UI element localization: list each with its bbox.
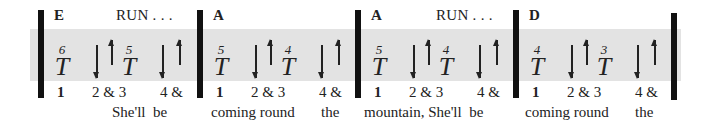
measure-2: A 5 T 4 T 1 2 & 3 4 & coming round the xyxy=(203,0,355,136)
up-strum-arrow-icon xyxy=(496,40,498,65)
beat-count: 1 xyxy=(216,84,224,101)
lyric: coming round xyxy=(211,104,295,121)
down-strum-arrow-icon xyxy=(162,45,164,78)
thumb-symbol: T xyxy=(278,56,298,78)
chord-label: A xyxy=(371,7,382,24)
measure-3: A RUN . . . 5 T 4 T 1 2 & 3 4 & mountain… xyxy=(361,0,513,136)
down-strum-arrow-icon xyxy=(479,45,481,78)
thumb-symbol: T xyxy=(594,56,614,78)
lyric: the xyxy=(321,104,339,121)
thumb-stroke: 5 T xyxy=(369,44,389,78)
thumb-symbol: T xyxy=(436,56,456,78)
down-strum-arrow-icon xyxy=(413,45,415,78)
thumb-symbol: T xyxy=(369,56,389,78)
thumb-symbol: T xyxy=(527,56,547,78)
chord-label: D xyxy=(529,7,540,24)
beat-count: 1 xyxy=(374,84,382,101)
thumb-symbol: T xyxy=(52,56,72,78)
up-strum-arrow-icon xyxy=(338,40,340,65)
thumb-stroke: 4 T xyxy=(436,44,456,78)
beat-count: 2 & 3 xyxy=(251,84,285,101)
lyric: mountain, She'll be xyxy=(364,104,483,121)
run-annotation: RUN . . . xyxy=(116,7,173,24)
up-strum-arrow-icon xyxy=(586,40,588,65)
chord-label: E xyxy=(54,7,64,24)
lyric: the xyxy=(635,104,653,121)
thumb-stroke: 4 T xyxy=(278,44,298,78)
lyric: She'll be xyxy=(112,104,167,121)
thumb-stroke: 6 T xyxy=(52,44,72,78)
beat-count: 4 & xyxy=(160,84,183,101)
up-strum-arrow-icon xyxy=(428,40,430,65)
beat-count: 4 & xyxy=(477,84,500,101)
up-strum-arrow-icon xyxy=(654,40,656,65)
lyric: coming round xyxy=(525,104,609,121)
thumb-stroke: 3 T xyxy=(594,44,614,78)
up-strum-arrow-icon xyxy=(270,40,272,65)
measure-4: D 4 T 3 T 1 2 & 3 4 & coming round the xyxy=(519,0,671,136)
run-annotation: RUN . . . xyxy=(436,7,493,24)
thumb-symbol: T xyxy=(119,56,139,78)
down-strum-arrow-icon xyxy=(637,45,639,78)
beat-count: 4 & xyxy=(319,84,342,101)
beat-count: 2 & 3 xyxy=(409,84,443,101)
beat-count: 2 & 3 xyxy=(92,84,126,101)
chord-label: A xyxy=(213,7,224,24)
thumb-stroke: 5 T xyxy=(119,44,139,78)
down-strum-arrow-icon xyxy=(321,45,323,78)
thumb-stroke: 5 T xyxy=(211,44,231,78)
beat-count: 2 & 3 xyxy=(567,84,601,101)
final-bar-line xyxy=(671,13,677,100)
up-strum-arrow-icon xyxy=(179,40,181,65)
up-strum-arrow-icon xyxy=(111,40,113,65)
down-strum-arrow-icon xyxy=(96,45,98,78)
down-strum-arrow-icon xyxy=(571,45,573,78)
thumb-stroke: 4 T xyxy=(527,44,547,78)
beat-count: 4 & xyxy=(635,84,658,101)
thumb-symbol: T xyxy=(211,56,231,78)
beat-count: 1 xyxy=(532,84,540,101)
measure-1: E RUN . . . 6 T 5 T 1 2 & 3 4 & She'll b… xyxy=(44,0,196,136)
beat-count: 1 xyxy=(57,84,65,101)
down-strum-arrow-icon xyxy=(255,45,257,78)
